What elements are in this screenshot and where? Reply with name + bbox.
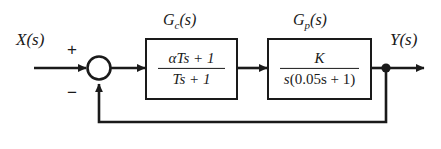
output-signal-label: Y(s)	[390, 31, 417, 48]
summing-junction-circle	[88, 57, 111, 80]
plant-denominator: s(0.05s + 1)	[269, 69, 370, 88]
plant-label-tail: (s)	[310, 11, 327, 28]
controller-numerator: αTs + 1	[147, 50, 236, 68]
plant-label-base: G	[293, 11, 305, 28]
plant-numerator: K	[269, 50, 370, 68]
plant-transfer-function: K s(0.05s + 1)	[269, 50, 370, 88]
controller-label-base: G	[163, 11, 175, 28]
plant-block-label: Gp(s)	[293, 12, 327, 31]
controller-block[interactable]: αTs + 1 Ts + 1	[145, 38, 238, 100]
controller-numerator-text: Ts + 1	[176, 50, 214, 66]
plant-denominator-paren: (0.05s + 1)	[290, 71, 356, 87]
block-diagram: X(s) Y(s) + − Gc(s) αTs + 1 Ts + 1 Gp(s)…	[0, 0, 441, 149]
summing-junction-minus-sign: −	[67, 84, 77, 101]
controller-transfer-function: αTs + 1 Ts + 1	[147, 50, 236, 88]
controller-block-label: Gc(s)	[163, 12, 196, 31]
plant-block[interactable]: K s(0.05s + 1)	[267, 38, 372, 100]
input-signal-label: X(s)	[16, 31, 44, 48]
controller-label-tail: (s)	[179, 11, 196, 28]
summing-junction-plus-sign: +	[67, 41, 77, 58]
controller-denominator: Ts + 1	[147, 69, 236, 88]
